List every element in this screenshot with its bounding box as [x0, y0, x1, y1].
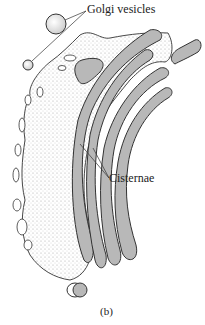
leader-line-vesicle-large	[65, 11, 86, 20]
cisterna-5	[171, 40, 201, 64]
vesicle-small	[23, 60, 33, 70]
label-golgi-vesicles: Golgi vesicles	[87, 2, 155, 17]
golgi-apparatus-diagram	[0, 0, 205, 325]
label-cisternae: Cisternae	[109, 171, 154, 186]
cisternae-stack	[72, 30, 201, 268]
vesicle-large	[46, 14, 66, 34]
figure-caption: (b)	[100, 305, 113, 317]
budding-vesicle	[67, 283, 87, 297]
